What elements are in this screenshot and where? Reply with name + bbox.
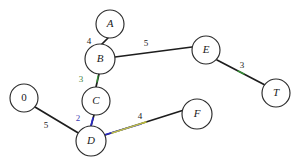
- edge-weight-C-D: 2: [76, 113, 81, 123]
- edge-weight-E-T: 3: [240, 60, 245, 70]
- edge-weight-A-B: 4: [87, 36, 92, 46]
- edge-weight-D-F: 4: [138, 111, 143, 121]
- node-A-label: A: [106, 17, 114, 29]
- edge-B-E: [115, 47, 192, 57]
- edge-weight-B-C: 3: [79, 74, 84, 84]
- edge-weight-B-E: 5: [144, 38, 149, 48]
- node-C-label: C: [92, 94, 100, 106]
- node-0-label: 0: [21, 91, 27, 103]
- edge-C-D-tint: [91, 118, 93, 126]
- edge-weight-0-D: 5: [44, 120, 49, 130]
- edge-E-T-tint: [238, 71, 244, 74]
- node-B-label: B: [97, 52, 104, 64]
- edge-group: [35, 38, 265, 135]
- edge-0-D: [35, 107, 80, 134]
- node-E-label: E: [202, 43, 210, 55]
- edge-D-F-tint-yellow: [112, 122, 146, 133]
- node-group: A B C D 0 E T F: [10, 10, 290, 156]
- graph-canvas: A B C D 0 E T F 4 5 3 2 5 4 3: [0, 0, 297, 161]
- node-T-label: T: [273, 86, 280, 98]
- graph-svg: A B C D 0 E T F 4 5 3 2 5 4 3: [0, 0, 297, 161]
- edge-B-C-tint: [97, 76, 98, 82]
- node-F-label: F: [193, 107, 201, 119]
- node-D-label: D: [86, 134, 95, 146]
